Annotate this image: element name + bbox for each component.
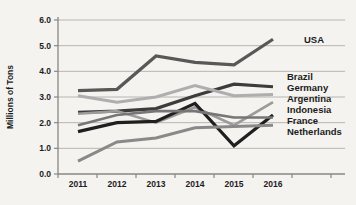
y-tick-label: 1.0 <box>39 143 51 153</box>
y-tick-label: 2.0 <box>39 118 51 128</box>
series-line-germany <box>78 85 273 102</box>
series-labels: USABrazilGermanyArgentinaIndonesiaFrance… <box>287 34 342 137</box>
axis-tick-labels: 0.01.02.03.04.05.06.02011201220132014201… <box>39 15 283 189</box>
x-tick-label: 2015 <box>225 179 244 189</box>
x-tick-label: 2011 <box>69 179 88 189</box>
y-axis-title: Millions of Tons <box>5 65 15 129</box>
y-tick-label: 6.0 <box>39 15 51 25</box>
series-label-germany: Germany <box>287 82 329 93</box>
plot-lines <box>78 39 273 161</box>
series-label-argentina: Argentina <box>287 93 332 104</box>
series-line-netherlands <box>78 125 273 161</box>
series-label-france: France <box>287 115 318 126</box>
series-label-netherlands: Netherlands <box>287 126 342 137</box>
y-tick-label: 5.0 <box>39 41 51 51</box>
x-tick-label: 2016 <box>264 179 283 189</box>
series-line-usa <box>78 39 273 90</box>
x-tick-label: 2013 <box>147 179 166 189</box>
x-tick-label: 2014 <box>186 179 205 189</box>
series-line-indonesia <box>78 103 273 145</box>
line-chart-figure: 0.01.02.03.04.05.06.02011201220132014201… <box>0 0 356 205</box>
y-tick-label: 4.0 <box>39 66 51 76</box>
line-chart: 0.01.02.03.04.05.06.02011201220132014201… <box>0 0 356 205</box>
series-label-usa: USA <box>304 34 324 45</box>
series-label-indonesia: Indonesia <box>287 104 332 115</box>
y-tick-label: 3.0 <box>39 92 51 102</box>
x-tick-label: 2012 <box>108 179 127 189</box>
y-tick-label: 0.0 <box>39 169 51 179</box>
series-label-brazil: Brazil <box>287 71 313 82</box>
